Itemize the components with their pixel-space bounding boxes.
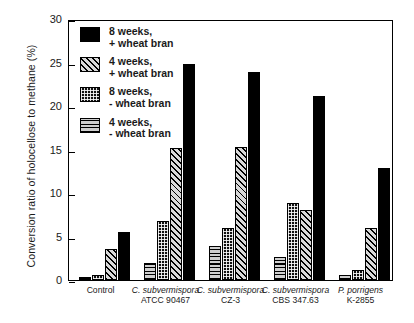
bar-group xyxy=(264,21,329,280)
chart-legend: 8 weeks,+ wheat bran4 weeks,+ wheat bran… xyxy=(80,26,230,147)
y-axis-tick-label: 10 xyxy=(34,187,62,199)
bar xyxy=(248,72,261,280)
bar xyxy=(105,249,118,280)
legend-swatch xyxy=(80,57,100,72)
legend-label-line2: - wheat bran xyxy=(109,98,171,110)
bar xyxy=(118,232,131,280)
bar xyxy=(222,228,235,280)
y-axis-tick-label: 5 xyxy=(34,231,62,243)
bar xyxy=(209,246,222,280)
legend-swatch xyxy=(80,87,100,102)
y-axis-tick-label: 25 xyxy=(34,57,62,69)
legend-item: 4 weeks,+ wheat bran xyxy=(80,56,230,79)
bar xyxy=(274,257,287,280)
x-axis-tick-labels: ControlC. subvermisporaATCC 90467C. subv… xyxy=(68,285,393,321)
bar xyxy=(339,275,352,280)
bar xyxy=(287,203,300,280)
legend-label-line1: 8 weeks, xyxy=(109,26,173,38)
legend-item: 8 weeks,+ wheat bran xyxy=(80,26,230,49)
bar xyxy=(313,96,326,280)
legend-swatch xyxy=(80,27,100,42)
bar xyxy=(378,168,391,280)
y-axis-tick-label: 20 xyxy=(34,100,62,112)
bar xyxy=(144,263,157,280)
x-axis-category-label: P. porrigensK-2855 xyxy=(312,285,409,305)
y-axis-tick-label: 15 xyxy=(34,144,62,156)
bar xyxy=(300,210,313,280)
legend-item: 4 weeks,- wheat bran xyxy=(80,117,230,140)
x-axis-category-line2: K-2855 xyxy=(312,295,409,305)
bar xyxy=(170,148,183,280)
bar-group xyxy=(329,21,394,280)
bar xyxy=(365,228,378,280)
bar xyxy=(352,270,365,280)
x-axis-category-line1: P. porrigens xyxy=(312,285,409,295)
bar-chart-figure: Conversion ratio of holocellose to metha… xyxy=(0,0,414,323)
y-axis-tick-label: 30 xyxy=(34,13,62,25)
bar xyxy=(157,221,170,280)
legend-item: 8 weeks,- wheat bran xyxy=(80,86,230,109)
bar xyxy=(79,277,92,280)
y-axis-tick xyxy=(69,282,75,283)
legend-label: 4 weeks,+ wheat bran xyxy=(109,56,173,79)
legend-label: 4 weeks,- wheat bran xyxy=(109,117,171,140)
legend-label-line2: + wheat bran xyxy=(109,68,173,80)
bar xyxy=(235,147,248,280)
legend-label: 8 weeks,+ wheat bran xyxy=(109,26,173,49)
legend-label-line2: - wheat bran xyxy=(109,128,171,140)
legend-label-line2: + wheat bran xyxy=(109,38,173,50)
legend-swatch xyxy=(80,118,100,133)
legend-label: 8 weeks,- wheat bran xyxy=(109,86,171,109)
bar xyxy=(92,275,105,280)
